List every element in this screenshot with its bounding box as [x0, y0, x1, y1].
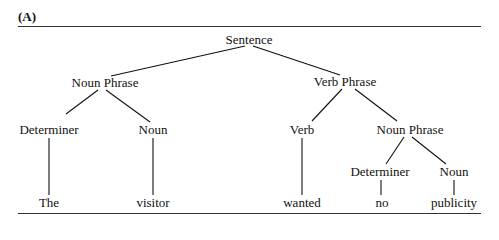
edge-verbphrase-nounphrase [355, 89, 397, 121]
edge-nounphrase-determiner [66, 90, 98, 114]
leaf-no: no [376, 195, 389, 211]
leaf-publicity: publicity [431, 195, 477, 211]
edge-nounphrase-noun [106, 90, 150, 122]
node-noun: Noun [139, 122, 168, 138]
node-determiner: Determiner [19, 122, 78, 138]
leaf-wanted: wanted [283, 195, 321, 211]
node-noun-2: Noun [440, 164, 469, 180]
node-noun-phrase-2: Noun Phrase [377, 122, 444, 138]
edge-sentence-verbphrase [253, 46, 340, 75]
edge-verbphrase-verb [312, 89, 342, 121]
leaf-visitor: visitor [136, 195, 169, 211]
node-noun-phrase: Noun Phrase [72, 75, 139, 91]
leaf-the: The [39, 195, 59, 211]
edge-nounphrase-noun2 [412, 137, 446, 164]
edge-sentence-nounphrase [111, 46, 245, 76]
node-sentence: Sentence [226, 32, 273, 48]
edge-nounphrase-determiner2 [386, 137, 404, 164]
node-verb: Verb [290, 122, 315, 138]
node-determiner-2: Determiner [350, 164, 409, 180]
node-verb-phrase: Verb Phrase [314, 74, 376, 90]
